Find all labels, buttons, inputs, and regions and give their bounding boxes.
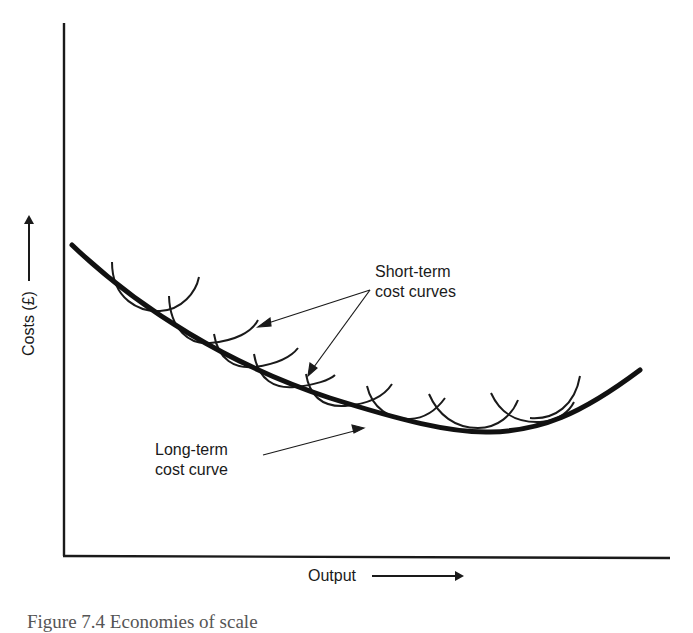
long-term-line1: Long-term [155, 440, 228, 460]
short-term-curve-1 [112, 262, 199, 311]
y-axis-label: Costs (£) [20, 217, 38, 356]
arrowhead-icon [258, 318, 271, 327]
long-term-line2: cost curve [155, 460, 228, 480]
short-term-annotation: Short-term cost curves [375, 262, 456, 302]
short-term-line2: cost curves [375, 282, 456, 302]
arrowhead-icon [352, 425, 364, 433]
arrow-up-icon [28, 217, 30, 281]
long-term-pointer-arrow [263, 425, 364, 455]
x-axis [63, 556, 670, 558]
short-term-curve-4 [254, 354, 335, 387]
x-axis-title: Output [308, 567, 356, 585]
arrow-right-icon [372, 575, 462, 577]
y-axis-title: Costs (£) [20, 291, 38, 356]
figure-caption: Figure 7.4 Economies of scale [27, 611, 258, 633]
short-term-line1: Short-term [375, 262, 456, 282]
x-axis-label: Output [308, 567, 462, 585]
long-term-cost-curve [72, 245, 640, 432]
long-term-annotation: Long-term cost curve [155, 440, 228, 480]
short-term-curve-5 [306, 374, 392, 406]
